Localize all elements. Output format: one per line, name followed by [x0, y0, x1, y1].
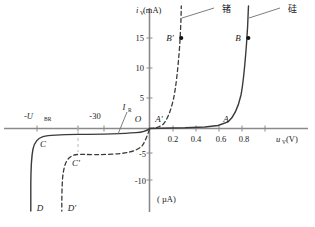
y-tick-label-minus-10: -10 [135, 176, 146, 186]
germanium-label: 锗 [222, 3, 231, 14]
diode-vi-characteristic-chart: 0.2 0.4 0.6 0.8 u V (V) -U BR -30 15 10 … [0, 0, 315, 227]
silicon-label: 硅 [288, 3, 297, 14]
point-label-b-prime: B' [166, 33, 174, 43]
x-axis-label-unit: (V) [286, 134, 298, 144]
y-tick-label-5: 5 [140, 93, 144, 103]
x-tick-label-minus-30: -30 [89, 111, 100, 121]
point-label-d: D [36, 203, 44, 213]
reverse-current-label: I R [122, 102, 132, 113]
point-label-a: A [222, 114, 229, 124]
y-axis-label-unit: (mA) [143, 5, 162, 15]
x-tick-label-0-8: 0.8 [239, 134, 250, 144]
chart-canvas: 0.2 0.4 0.6 0.8 u V (V) -U BR -30 15 10 … [0, 0, 315, 227]
reverse-current-label-main: I [122, 102, 127, 112]
point-label-b: B [235, 33, 241, 43]
y-axis-label: i V (mA) [136, 5, 162, 16]
point-label-d-prime: D' [67, 203, 77, 213]
point-marker-b-prime[interactable] [179, 36, 183, 40]
silicon-reverse-curve [31, 129, 150, 211]
x-tick-label-0-4: 0.4 [191, 134, 202, 144]
y-tick-label-15: 15 [136, 33, 145, 43]
x-axis-label: u V (V) [276, 134, 298, 145]
origin-label: O [135, 114, 142, 124]
germanium-forward-curve [150, 6, 182, 129]
y-tick-label-10: 10 [136, 63, 145, 73]
reverse-current-label-sub: R [128, 107, 132, 113]
point-label-a-prime: A' [154, 114, 163, 124]
point-label-c: C [40, 139, 47, 149]
y-axis-label-main: i [136, 5, 139, 15]
x-tick-label-minus-ubr: -U BR [24, 111, 52, 122]
germanium-reverse-curve [62, 130, 150, 212]
y-tick-label-minus-5: -5 [139, 149, 146, 159]
germanium-leader-line [182, 8, 214, 18]
silicon-leader-line [249, 8, 280, 18]
x-tick-label-minus-ubr-sub: BR [44, 116, 52, 122]
silicon-forward-curve [150, 6, 249, 129]
reverse-current-leader-line [118, 112, 127, 134]
x-axis-label-main: u [276, 134, 280, 144]
x-tick-label-minus-ubr-main: -U [24, 111, 34, 121]
microamp-label: ( µA) [157, 194, 176, 204]
x-tick-label-0-6: 0.6 [216, 134, 227, 144]
point-label-c-prime: C' [72, 158, 81, 168]
x-tick-label-0-2: 0.2 [168, 134, 179, 144]
point-marker-b[interactable] [246, 36, 250, 40]
